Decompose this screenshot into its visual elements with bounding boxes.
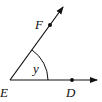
label-f: F <box>34 17 44 32</box>
point-f <box>48 23 52 27</box>
label-y: y <box>31 61 39 76</box>
angle-diagram: F y E D <box>0 0 102 102</box>
label-d: D <box>65 85 76 100</box>
label-e: E <box>0 85 8 100</box>
point-d <box>70 78 74 82</box>
